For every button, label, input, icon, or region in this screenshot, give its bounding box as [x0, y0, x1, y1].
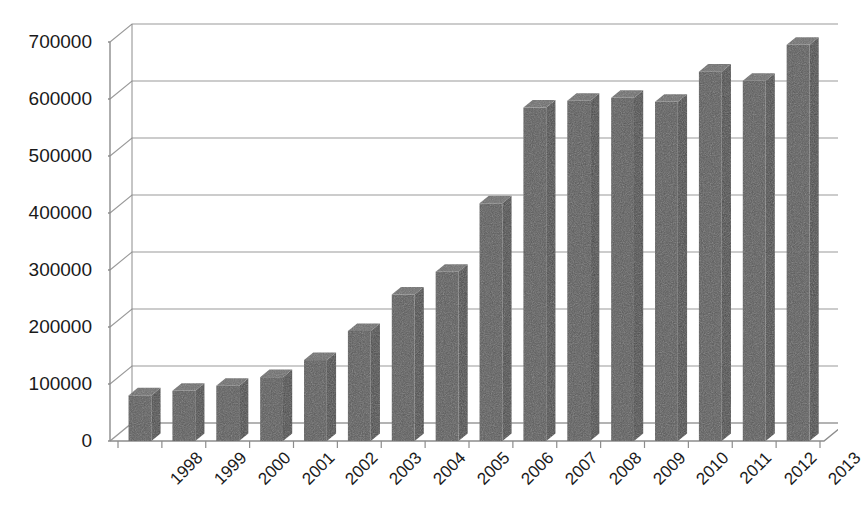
bar-2009: [611, 90, 643, 441]
bar-2013: [787, 37, 819, 441]
x-axis-tick-label: 2011: [737, 449, 775, 487]
x-axis-tick-label: 2008: [606, 449, 645, 488]
bar-1999: [172, 383, 204, 441]
y-axis-tick-label: 600000: [29, 89, 92, 108]
y-axis-tick-label: 100000: [29, 374, 92, 393]
x-axis-tick-label: 2003: [386, 449, 425, 488]
bars: [129, 37, 819, 441]
y-axis-tick-label: 0: [81, 431, 92, 450]
y-axis-tick-label: 400000: [29, 203, 92, 222]
bar-2000: [216, 378, 248, 441]
bar-2006: [480, 196, 512, 441]
plot-area: [108, 20, 838, 460]
bar-2003: [348, 323, 380, 441]
y-axis-tick-label: 500000: [29, 146, 92, 165]
y-axis-tick-label: 700000: [29, 32, 92, 51]
x-axis-tick-label: 2001: [299, 449, 338, 488]
bar-2005: [436, 264, 468, 441]
bar-2011: [699, 64, 731, 441]
x-axis-tick-label: 2013: [825, 449, 864, 488]
y-axis-labels: 0100000200000300000400000500000600000700…: [0, 0, 100, 529]
bar-2002: [304, 353, 336, 442]
x-axis-tick-label: 2007: [562, 449, 601, 488]
x-axis-labels: 1998199920002001200220032004200520062007…: [108, 443, 838, 529]
bar-1998: [129, 388, 161, 441]
y-axis-tick-label: 300000: [29, 260, 92, 279]
bar-2008: [567, 93, 599, 441]
x-axis-tick-label: 2004: [430, 449, 469, 488]
x-axis-tick-label: 2010: [694, 449, 733, 488]
x-axis-tick-label: 2005: [474, 449, 513, 488]
x-axis-tick-label: 1998: [167, 449, 206, 488]
x-axis-tick-label: 2012: [781, 449, 820, 488]
bar-2007: [523, 100, 555, 441]
x-axis-tick-label: 2006: [518, 449, 557, 488]
bar-2001: [260, 370, 292, 441]
x-axis-tick-label: 2009: [650, 449, 689, 488]
x-axis-tick-label: 1999: [211, 449, 250, 488]
bar-2004: [392, 287, 424, 441]
x-axis-tick-label: 2000: [255, 449, 294, 488]
bar-2010: [655, 94, 687, 441]
y-axis-tick-label: 200000: [29, 317, 92, 336]
x-axis-tick-label: 2002: [343, 449, 382, 488]
bar-2012: [743, 73, 775, 441]
